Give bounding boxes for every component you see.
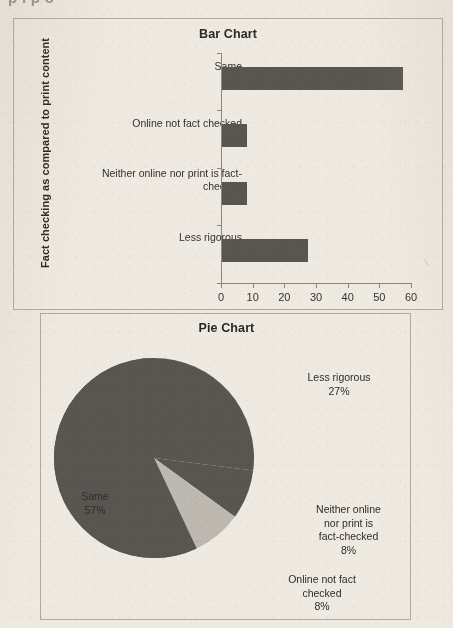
bar-chart-panel: Bar Chart Fact checking as compared to p… xyxy=(13,18,443,310)
bar-online-not-fact-checked xyxy=(222,124,247,147)
bar-neither-online-nor-print xyxy=(222,182,247,205)
bar-chart-y-axis-title: Fact checking as compared to print conte… xyxy=(39,38,51,268)
x-axis-tick xyxy=(379,283,380,288)
bar-category-label-same: Same xyxy=(62,60,242,73)
bar-chart-plot-area: 0 10 20 30 40 50 60 xyxy=(221,53,411,283)
x-axis-tick xyxy=(316,283,317,288)
x-axis-tick xyxy=(253,283,254,288)
x-axis-tick xyxy=(284,283,285,288)
pie-label-less-rigorous: Less rigorous 27% xyxy=(279,371,399,398)
y-axis-tick xyxy=(217,53,221,54)
pie-label-neither-online-nor-print: Neither online nor print is fact-checked… xyxy=(291,503,406,557)
bar-category-label-online-not-fact-checked: Online not fact checked xyxy=(62,117,242,130)
pie-label-same: Same 57% xyxy=(53,490,137,517)
x-axis-tick-label-0: 0 xyxy=(206,291,236,303)
x-axis-tick-label-30: 30 xyxy=(301,291,331,303)
cut-off-header-label: p i p o xyxy=(0,0,453,6)
x-axis-tick-label-10: 10 xyxy=(238,291,268,303)
bar-chart-title: Bar Chart xyxy=(14,27,442,41)
cut-off-header-text: p i p o xyxy=(0,0,453,9)
x-axis-tick-label-40: 40 xyxy=(333,291,363,303)
y-axis-tick xyxy=(217,168,221,169)
bar-same xyxy=(222,67,403,90)
bar-category-label-less-rigorous: Less rigorous xyxy=(62,231,242,244)
pie-chart-graphic xyxy=(54,358,254,558)
x-axis-tick-label-50: 50 xyxy=(364,291,394,303)
x-axis-tick-label-20: 20 xyxy=(269,291,299,303)
bar-category-label-neither-online-nor-print: Neither online nor print is fact- checke… xyxy=(62,167,242,193)
x-axis-tick xyxy=(221,283,222,288)
bar-less-rigorous xyxy=(222,239,308,262)
x-axis-tick xyxy=(411,283,412,288)
x-axis-tick xyxy=(348,283,349,288)
pie-chart-title: Pie Chart xyxy=(41,321,412,335)
y-axis-tick xyxy=(217,225,221,226)
y-axis-tick xyxy=(217,110,221,111)
pie-label-online-not-fact-checked: Online not fact checked 8% xyxy=(263,573,381,614)
x-axis-tick-label-60: 60 xyxy=(396,291,426,303)
pie-wedge-less-rigorous-final xyxy=(154,358,254,471)
pie-chart-panel: Pie Chart Less ri xyxy=(40,313,411,620)
